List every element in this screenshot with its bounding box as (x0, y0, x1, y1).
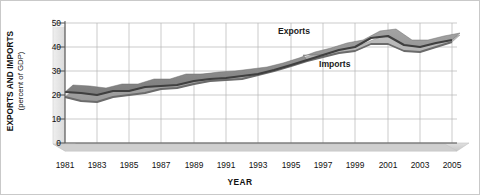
chart-frame: 50 40 30 20 10 0 1981 1983 1985 1987 198… (0, 0, 480, 195)
x-tick-1981: 1981 (48, 160, 82, 170)
x-tick-1997: 1997 (306, 160, 340, 170)
y-tick-30: 30 (41, 66, 61, 76)
x-tick-2005: 2005 (435, 160, 469, 170)
series-label-imports: Imports (319, 59, 351, 69)
x-tick-1999: 1999 (338, 160, 372, 170)
y-tick-0: 0 (41, 138, 61, 148)
axis-floor-3d (53, 143, 469, 151)
y-axis-title-sub: (percent of GDP) (16, 18, 26, 144)
x-axis-title: YEAR (1, 177, 479, 187)
y-tick-20: 20 (41, 90, 61, 100)
x-tick-1987: 1987 (144, 160, 178, 170)
x-tick-1991: 1991 (209, 160, 243, 170)
x-tick-1983: 1983 (80, 160, 114, 170)
y-tick-50: 50 (41, 18, 61, 28)
y-axis-title: EXPORTS AND IMPORTS (percent of GDP) (1, 15, 31, 145)
x-tick-1993: 1993 (241, 160, 275, 170)
x-tick-2001: 2001 (371, 160, 405, 170)
y-tick-10: 10 (41, 114, 61, 124)
y-tick-40: 40 (41, 42, 61, 52)
y-axis-title-main: EXPORTS AND IMPORTS (6, 18, 16, 144)
series-label-exports: Exports (278, 26, 310, 36)
x-tick-1985: 1985 (112, 160, 146, 170)
x-tick-2003: 2003 (403, 160, 437, 170)
x-tick-1989: 1989 (177, 160, 211, 170)
x-tick-1995: 1995 (274, 160, 308, 170)
